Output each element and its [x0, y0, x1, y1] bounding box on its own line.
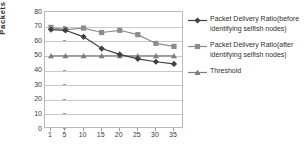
- x-tick-label: 35: [169, 131, 177, 139]
- x-tick-label: 20: [115, 131, 123, 139]
- x-tick-label: 1: [48, 131, 52, 139]
- x-tick-label: 25: [133, 131, 141, 139]
- plot-area: [44, 11, 183, 128]
- y-axis-ticks: 01020304050607080: [22, 0, 42, 155]
- legend-marker-square-icon: [188, 43, 207, 50]
- legend-marker-triangle-icon: [188, 69, 207, 76]
- legend-label: Packet Delivery Ratio(before identifying…: [210, 14, 304, 33]
- x-tick-label: 15: [97, 131, 105, 139]
- x-tick-mark: [101, 128, 102, 131]
- data-point-marker: [171, 44, 176, 49]
- data-point-marker: [117, 28, 122, 33]
- data-point-marker: [99, 45, 105, 51]
- data-point-marker: [135, 32, 140, 37]
- x-tick-label: 10: [79, 131, 87, 139]
- series-3: [48, 53, 177, 58]
- series-line: [51, 30, 174, 64]
- y-tick-label: 70: [34, 22, 42, 29]
- x-tick-mark: [83, 128, 84, 131]
- legend-marker-diamond-icon: [188, 17, 207, 24]
- data-point-marker: [153, 41, 158, 46]
- x-tick-mark: [119, 128, 120, 131]
- series-layer: [45, 12, 184, 129]
- x-tick-mark: [173, 128, 174, 131]
- x-axis-ticks: 15101520253035: [44, 131, 183, 145]
- y-tick-label: 10: [34, 110, 42, 117]
- legend-entry-2[interactable]: Packet Delivery Ratio(after identifying …: [188, 40, 304, 59]
- y-tick-label: 50: [34, 51, 42, 58]
- y-tick-label: 60: [34, 37, 42, 44]
- legend-label: Threshold: [210, 66, 304, 76]
- data-point-marker: [117, 51, 123, 57]
- legend-entry-1[interactable]: Packet Delivery Ratio(before identifying…: [188, 14, 304, 33]
- y-tick-label: 0: [38, 125, 42, 132]
- x-tick-mark: [155, 128, 156, 131]
- x-tick-mark: [137, 128, 138, 131]
- data-point-marker: [81, 25, 86, 30]
- legend-label: Packet Delivery Ratio(after identifying …: [210, 40, 304, 59]
- y-tick-label: 80: [34, 8, 42, 15]
- series-2: [48, 25, 176, 49]
- series-1: [48, 26, 177, 67]
- data-point-marker: [135, 56, 141, 62]
- x-tick-mark: [64, 128, 65, 131]
- data-point-marker: [153, 59, 159, 65]
- y-tick-label: 20: [34, 95, 42, 102]
- data-point-marker: [171, 61, 177, 67]
- data-point-marker: [99, 30, 104, 35]
- data-point-marker: [80, 34, 86, 40]
- x-tick-label: 30: [151, 131, 159, 139]
- chart-legend: Packet Delivery Ratio(before identifying…: [188, 14, 304, 83]
- y-tick-label: 40: [34, 66, 42, 73]
- y-tick-label: 30: [34, 81, 42, 88]
- data-point-marker: [194, 17, 200, 23]
- legend-entry-3[interactable]: Threshold: [188, 66, 304, 76]
- x-tick-mark: [50, 128, 51, 131]
- chart-container: Packets 01020304050607080 15101520253035…: [0, 0, 306, 155]
- x-tick-label: 5: [63, 131, 67, 139]
- data-point-marker: [195, 44, 200, 49]
- y-axis-title: Packets: [0, 0, 7, 48]
